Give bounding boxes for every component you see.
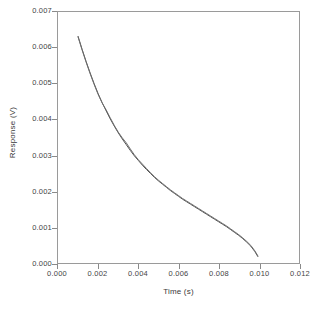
series-line-fitted — [78, 37, 258, 256]
y-axis-title-wrapper: Response (V) — [6, 0, 20, 264]
plot-area — [57, 11, 300, 264]
y-tick-mark — [52, 192, 57, 193]
y-tick-mark — [52, 156, 57, 157]
x-tick-label: 0.004 — [115, 270, 161, 278]
x-tick-label: 0.006 — [156, 270, 202, 278]
y-tick-mark — [52, 47, 57, 48]
y-tick-mark — [52, 228, 57, 229]
data-curves — [58, 12, 299, 263]
x-tick-label: 0.012 — [277, 270, 323, 278]
y-axis-title: Response (V) — [9, 106, 18, 157]
x-tick-label: 0.000 — [34, 270, 80, 278]
x-tick-label: 0.002 — [75, 270, 121, 278]
y-tick-mark — [52, 11, 57, 12]
series-line-measured — [78, 36, 258, 256]
chart-figure: 0.0000.0010.0020.0030.0040.0050.0060.007… — [0, 0, 324, 312]
x-tick-label: 0.010 — [237, 270, 283, 278]
y-tick-mark — [52, 83, 57, 84]
y-tick-mark — [52, 119, 57, 120]
x-axis-title: Time (s) — [57, 287, 300, 296]
x-tick-label: 0.008 — [196, 270, 242, 278]
